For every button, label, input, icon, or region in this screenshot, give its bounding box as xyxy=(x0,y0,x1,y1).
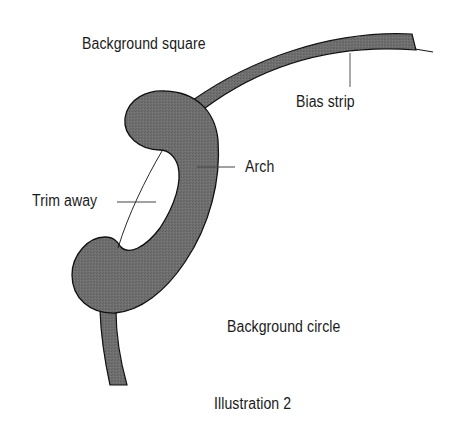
diagram-illustration xyxy=(0,0,462,430)
label-background-circle: Background circle xyxy=(227,318,340,336)
label-bias-strip: Bias strip xyxy=(296,93,355,111)
label-background-square: Background square xyxy=(82,35,206,53)
bias-strip-tail xyxy=(415,49,433,52)
label-trim-away: Trim away xyxy=(32,192,97,210)
figure-caption: Illustration 2 xyxy=(214,395,291,413)
bias-strip-lower xyxy=(100,310,127,385)
label-arch: Arch xyxy=(245,158,274,176)
diagram-canvas: Background square Bias strip Arch Trim a… xyxy=(0,0,462,430)
